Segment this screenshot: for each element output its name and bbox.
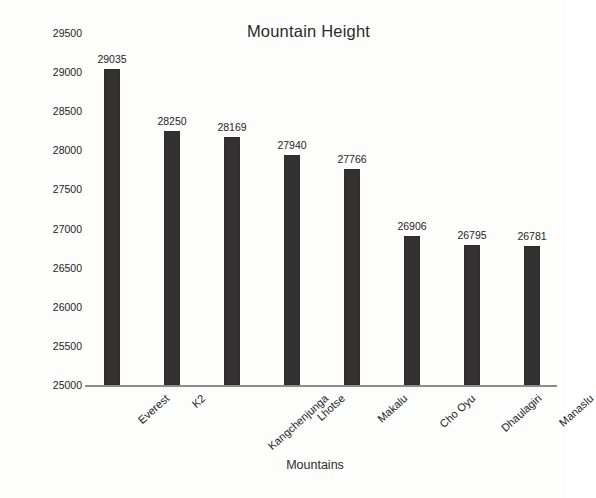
- bar[interactable]: [104, 69, 120, 385]
- y-axis-tick-label: 27000: [34, 223, 82, 235]
- bar-value-label: 26781: [504, 230, 560, 242]
- x-axis-line: [85, 385, 557, 387]
- x-axis-category-label: Cho Oyu: [437, 392, 477, 430]
- y-axis-tick-label: 26500: [34, 262, 82, 274]
- y-axis-tick-label: 25500: [34, 340, 82, 352]
- y-axis-tick-label: 25000: [34, 379, 82, 391]
- y-axis-tick-label: 27500: [34, 183, 82, 195]
- x-axis-category-label: Dhaulagiri: [499, 392, 544, 434]
- bar[interactable]: [404, 236, 420, 385]
- y-axis-tick-label: 26000: [34, 301, 82, 313]
- bar-value-label: 26795: [444, 229, 500, 241]
- bar-value-label: 27766: [324, 153, 380, 165]
- bar[interactable]: [164, 131, 180, 385]
- x-axis-category-label: Makalu: [375, 392, 409, 425]
- bar-value-label: 26906: [384, 220, 440, 232]
- bar[interactable]: [224, 137, 240, 385]
- y-axis-tick-labels: 2950029000285002800027500270002650026000…: [27, 0, 82, 498]
- x-axis-category-label: Manaslu: [557, 392, 596, 429]
- x-axis-category-label: Everest: [136, 392, 172, 426]
- y-axis-tick-label: 28500: [34, 105, 82, 117]
- y-axis-tick-label: 29500: [34, 27, 82, 39]
- bar[interactable]: [524, 246, 540, 385]
- plot-area: [85, 33, 555, 385]
- bar[interactable]: [464, 245, 480, 385]
- x-axis-title: Mountains: [75, 458, 555, 472]
- y-axis-tick-label: 29000: [34, 66, 82, 78]
- bar-value-label: 28250: [144, 115, 200, 127]
- bar[interactable]: [284, 155, 300, 385]
- bar[interactable]: [344, 169, 360, 385]
- bar-value-label: 27940: [264, 139, 320, 151]
- bar-value-label: 29035: [84, 53, 140, 65]
- bar-value-label: 28169: [204, 121, 260, 133]
- x-axis-category-label: K2: [189, 392, 207, 410]
- y-axis-tick-label: 28000: [34, 144, 82, 156]
